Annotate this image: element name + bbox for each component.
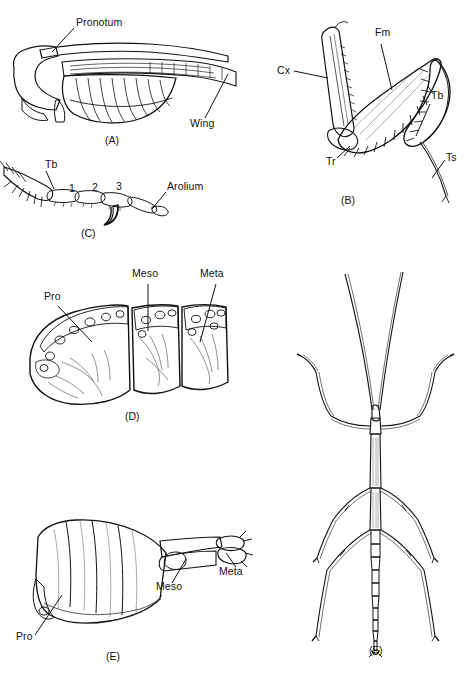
panel-b: Cx Fm Tb Tr Ts (B) <box>240 0 466 215</box>
label-meso: Meso <box>132 267 158 279</box>
caption-d: (D) <box>125 410 140 422</box>
panel-a: Pronotum Wing (A) <box>0 0 240 160</box>
panel-e-illustration <box>0 495 280 674</box>
label-meta: Meta <box>200 267 224 279</box>
label-tb: Tb <box>45 158 57 170</box>
leader-cx <box>294 71 328 78</box>
leader-pronotum <box>52 28 74 52</box>
label-ts: Ts <box>446 151 457 163</box>
segment-number-3: 3 <box>116 180 122 192</box>
label-pro: Pro <box>44 290 61 302</box>
label-wing: Wing <box>190 117 214 129</box>
caption-c: (C) <box>81 227 96 239</box>
label-pronotum: Pronotum <box>76 16 122 28</box>
panel-e: Pro Meso Meta (E) <box>0 495 280 674</box>
panel-f: (F) <box>283 258 466 674</box>
panel-c: Tb Arolium 1 2 3 (C) <box>0 155 240 250</box>
label-arolium: Arolium <box>167 180 203 192</box>
panel-d-illustration <box>0 258 280 433</box>
segment-number-2: 2 <box>92 181 98 193</box>
label-tb: Tb <box>431 89 443 101</box>
label-cx: Cx <box>277 64 290 76</box>
caption-a: (A) <box>105 134 119 146</box>
leader-meta-d <box>200 284 216 342</box>
label-fm: Fm <box>375 26 390 38</box>
label-meso: Meso <box>156 580 182 592</box>
panel-f-illustration <box>283 258 466 674</box>
caption-b: (B) <box>341 194 355 206</box>
segment-number-1: 1 <box>69 182 75 194</box>
panel-b-illustration <box>240 0 466 215</box>
figure-plate: Pronotum Wing (A) <box>0 0 466 674</box>
label-meta: Meta <box>219 565 243 577</box>
panel-d: Pro Meso Meta (D) <box>0 258 280 433</box>
label-pro: Pro <box>16 630 33 642</box>
panel-c-illustration <box>0 155 240 250</box>
caption-e: (E) <box>106 650 120 662</box>
caption-f: (F) <box>369 644 382 656</box>
label-tr: Tr <box>326 155 336 167</box>
leader-fm <box>381 44 392 90</box>
